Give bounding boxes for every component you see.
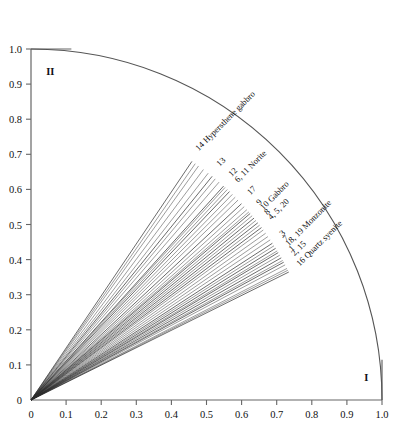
sample-ray	[31, 197, 235, 400]
y-tick-label: 0.4	[9, 255, 23, 266]
y-tick-label: 0.1	[9, 360, 22, 371]
sample-ray	[31, 272, 289, 400]
x-tick-label: 0.4	[165, 409, 179, 420]
sample-ray	[31, 176, 212, 400]
y-tick-label: 0.2	[9, 325, 22, 336]
y-tick-label: 0.3	[9, 290, 22, 301]
sample-ray	[31, 218, 254, 400]
x-tick-label: 0.5	[200, 409, 213, 420]
y-tick-label: 0.6	[9, 184, 22, 195]
sample-ray	[31, 161, 192, 400]
sample-ray	[31, 220, 256, 400]
sample-ray	[31, 166, 199, 400]
sample-ray	[31, 240, 270, 400]
y-tick-label: 0.8	[9, 114, 22, 125]
x-tick-label: 0.9	[340, 409, 353, 420]
sample-ray	[31, 246, 274, 400]
sample-ray	[31, 233, 266, 400]
sample-ray	[31, 173, 208, 400]
sample-ray	[31, 186, 224, 400]
sample-ray	[31, 237, 268, 400]
ray-label-1: 13	[214, 155, 227, 168]
y-tick-label: 0.5	[9, 220, 22, 231]
sample-ray	[31, 194, 232, 400]
y-axis-name: II	[46, 66, 54, 77]
y-tick-label: 0	[17, 395, 22, 406]
x-tick-label: 0.7	[270, 409, 283, 420]
x-tick-label: 0.1	[60, 409, 73, 420]
chart-root: 00.10.20.30.40.50.60.70.80.91.000.10.20.…	[0, 0, 395, 426]
x-tick-label: 0.3	[130, 409, 143, 420]
sample-ray	[31, 243, 272, 400]
ray-label-3: 6, 11 Norite	[232, 148, 268, 184]
sample-ray	[31, 268, 287, 400]
sample-ray	[31, 262, 284, 400]
x-axis-name: I	[364, 372, 368, 383]
x-tick-label: 0.2	[95, 409, 108, 420]
sample-ray	[31, 179, 215, 400]
x-tick-label: 1.0	[375, 409, 388, 420]
y-tick-label: 0.7	[9, 149, 22, 160]
sample-ray	[31, 255, 280, 400]
sample-ray	[31, 216, 252, 400]
sample-ray	[31, 223, 258, 400]
ray-label-0: 14 Hypersthene gabbro	[193, 89, 257, 153]
x-tick-label: 0.8	[305, 409, 318, 420]
y-tick-label: 1.0	[9, 44, 22, 55]
sample-ray	[31, 210, 247, 400]
sample-ray	[31, 230, 263, 400]
x-tick-label: 0.6	[235, 409, 248, 420]
y-tick-label: 0.9	[9, 79, 22, 90]
x-tick-label: 0	[28, 409, 33, 420]
sample-ray	[31, 228, 261, 400]
sample-ray	[31, 190, 227, 400]
sample-ray	[31, 164, 195, 400]
ray-label-4: 17	[245, 183, 259, 197]
sample-ray	[31, 253, 278, 400]
sample-ray	[31, 225, 260, 400]
radial-variation-diagram: 00.10.20.30.40.50.60.70.80.91.000.10.20.…	[0, 0, 395, 426]
sample-ray	[31, 204, 241, 400]
sample-ray	[31, 182, 219, 400]
sample-ray	[31, 213, 250, 400]
sample-ray	[31, 170, 203, 400]
